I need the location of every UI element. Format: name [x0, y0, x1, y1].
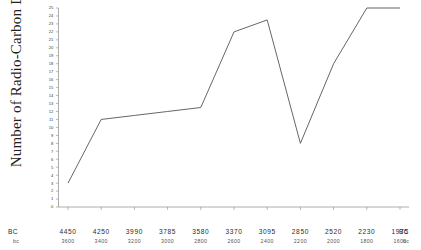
- data-series-line: [68, 8, 400, 183]
- y-tick-label: 22: [42, 29, 54, 34]
- y-tick-label: 4: [42, 173, 54, 178]
- y-tick-label: 20: [42, 45, 54, 50]
- x-tick-label-secondary: 1600: [380, 238, 420, 244]
- x-axis-secondary-era-label: bc: [13, 238, 19, 244]
- y-tick-label: 17: [42, 69, 54, 74]
- y-tick-label: 6: [42, 157, 54, 162]
- y-tick-label: 25: [42, 5, 54, 10]
- y-tick-label: 9: [42, 133, 54, 138]
- y-tick-label: 14: [42, 93, 54, 98]
- y-tick-label: 5: [42, 165, 54, 170]
- y-tick-label: 18: [42, 61, 54, 66]
- radiocarbon-dates-line-chart: Number of Radio-Carbon Dates 01234567891…: [0, 0, 421, 250]
- x-axis-secondary-era-end-label: bc: [403, 238, 409, 244]
- y-axis-title: Number of Radio-Carbon Dates: [8, 0, 25, 169]
- y-tick-label: 12: [42, 109, 54, 114]
- y-tick-label: 16: [42, 77, 54, 82]
- y-tick-label: 13: [42, 101, 54, 106]
- y-tick-label: 10: [42, 125, 54, 130]
- y-tick-label: 11: [42, 117, 54, 122]
- y-tick-label: 21: [42, 37, 54, 42]
- x-axis-primary-era-end-label: BC: [399, 228, 409, 235]
- axes: [59, 8, 410, 207]
- y-tick-label: 0: [42, 204, 54, 209]
- x-axis-primary-era-label: BC: [8, 228, 18, 235]
- y-tick-label: 7: [42, 149, 54, 154]
- y-tick-label: 1: [42, 196, 54, 201]
- y-tick-label: 2: [42, 188, 54, 193]
- y-tick-label: 8: [42, 141, 54, 146]
- x-axis-tickmarks: [68, 207, 400, 210]
- y-tick-label: 19: [42, 53, 54, 58]
- y-tick-label: 15: [42, 85, 54, 90]
- y-axis-tickmarks: [56, 8, 59, 207]
- y-tick-label: 23: [42, 21, 54, 26]
- plot-area: [0, 0, 421, 250]
- y-tick-label: 3: [42, 181, 54, 186]
- y-tick-label: 24: [42, 13, 54, 18]
